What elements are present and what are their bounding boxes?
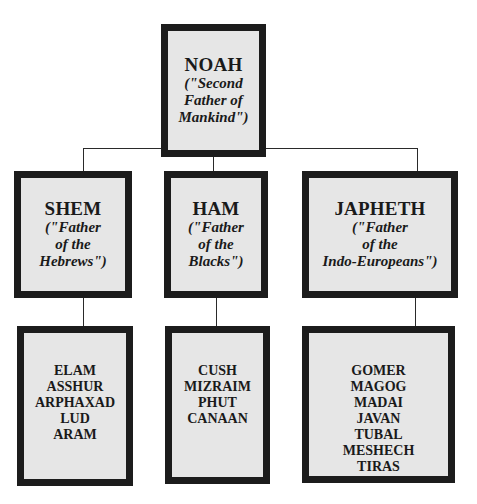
descendant-item: PHUT [198,395,237,411]
node-noah-title-line-2: Father of [184,92,243,109]
connector-japheth-down [415,297,416,327]
connector-ham-down [216,297,217,327]
node-japheth-title-line-3: Indo-Europeans") [322,253,437,270]
descendant-item: ARPHAXAD [35,395,115,411]
node-shem-name: SHEM [45,199,102,219]
descendant-item: LUD [60,411,90,427]
node-shem-title-line-2: of the [55,236,90,253]
descendant-item: TUBAL [354,427,402,443]
node-japheth-name: JAPHETH [334,199,425,219]
descendant-item: CANAAN [187,411,248,427]
node-noah-title-line-1: ("Second [184,75,242,92]
node-japheth-title-line-2: of the [362,236,397,253]
descendant-item: MAGOG [351,379,407,395]
node-japheth-title-line-1: ("Father [352,219,408,236]
descendant-item: MADAI [354,395,403,411]
node-ham-title-line-3: Blacks") [189,253,244,270]
descendant-item: ELAM [54,363,96,379]
node-japheth: JAPHETH ("Father of the Indo-Europeans") [302,171,458,298]
connector-shem-up [83,148,84,172]
node-noah-name: NOAH [185,55,243,75]
descendant-item: CUSH [198,363,237,379]
descendants-japheth: GOMER MAGOG MADAI JAVAN TUBAL MESHECH TI… [302,326,455,483]
descendant-item: TIRAS [357,459,400,475]
connector-shem-down [83,297,84,327]
node-noah: NOAH ("Second Father of Mankind") [161,24,266,157]
node-ham-title-line-2: of the [198,236,233,253]
node-shem: SHEM ("Father of the Hebrews") [14,171,132,298]
descendant-item: ARAM [53,427,97,443]
connector-japheth-up [417,148,418,172]
node-ham-title-line-1: ("Father [188,219,244,236]
descendant-item: ASSHUR [47,379,104,395]
node-ham: HAM ("Father of the Blacks") [164,171,268,298]
descendant-item: JAVAN [357,411,401,427]
descendants-ham: CUSH MIZRAIM PHUT CANAAN [165,326,270,484]
descendant-item: MIZRAIM [184,379,251,395]
descendant-item: GOMER [351,363,405,379]
node-shem-title-line-3: Hebrews") [39,253,107,270]
node-shem-title-line-1: ("Father [45,219,101,236]
descendants-shem: ELAM ASSHUR ARPHAXAD LUD ARAM [17,326,133,486]
descendant-item: MESHECH [343,443,415,459]
node-noah-title-line-3: Mankind") [178,109,248,126]
node-ham-name: HAM [192,199,239,219]
